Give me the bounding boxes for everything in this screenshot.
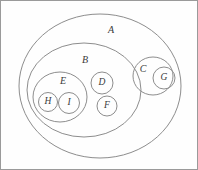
- set-label-f: F: [103, 100, 110, 110]
- diagram-frame: ABCEDFGHI: [0, 0, 198, 170]
- set-label-h: H: [44, 96, 53, 106]
- set-label-b: B: [82, 54, 88, 65]
- set-label-a: A: [107, 24, 115, 35]
- set-diagram: ABCEDFGHI: [1, 1, 198, 170]
- set-label-e: E: [59, 75, 66, 86]
- set-label-d: D: [98, 77, 106, 87]
- set-labels-group: ABCEDFGHI: [44, 24, 168, 110]
- set-label-c: C: [140, 63, 147, 74]
- set-label-i: I: [66, 97, 71, 107]
- set-label-g: G: [161, 72, 168, 82]
